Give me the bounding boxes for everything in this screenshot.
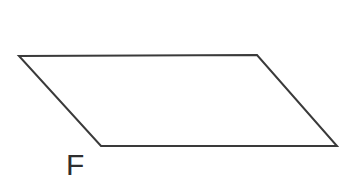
parallelogram-figure (0, 0, 342, 183)
parallelogram-outline (19, 55, 337, 146)
figure-canvas: F (0, 0, 342, 183)
vertex-label-f: F (66, 150, 84, 180)
